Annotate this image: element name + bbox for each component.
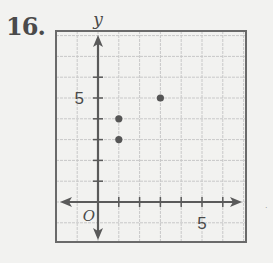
- data-point: [115, 115, 122, 122]
- coordinate-plane: y55O.: [0, 0, 273, 263]
- y-tick-label-5: 5: [75, 89, 84, 108]
- y-axis-label: y: [92, 9, 103, 29]
- data-point: [157, 94, 164, 101]
- origin-label: O: [83, 207, 95, 225]
- data-point: [115, 136, 122, 143]
- x-tick-label-5: 5: [197, 214, 206, 233]
- x-axis-label-cutoff: .: [265, 201, 268, 210]
